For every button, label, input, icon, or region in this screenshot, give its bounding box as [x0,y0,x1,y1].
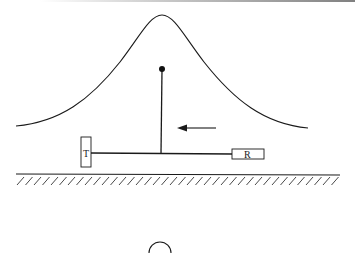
partial-circle [149,242,171,253]
ground-hatching [17,177,339,185]
ball-icon [159,66,165,72]
pole-with-ball [159,66,165,153]
receiver-box: R [232,149,264,160]
diagram-canvas: T R [0,0,355,253]
transmitter-box: T [81,137,91,167]
leftward-arrow-icon [177,125,216,132]
ground-line [16,174,340,175]
top-rule [40,0,355,2]
receiver-label: R [244,149,251,160]
transmitter-label: T [83,148,89,159]
connecting-line [91,153,232,154]
